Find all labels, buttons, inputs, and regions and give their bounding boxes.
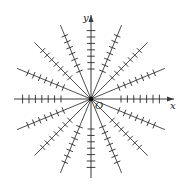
origin-label: O [95,101,103,111]
x-axis-label: x [170,101,176,111]
y-axis-label: y [83,13,89,23]
origin-dot [89,97,94,102]
y-axis-arrow-icon [89,15,94,22]
slope-field-plot [0,0,186,191]
direction-field-diagram: y x O [0,0,186,191]
